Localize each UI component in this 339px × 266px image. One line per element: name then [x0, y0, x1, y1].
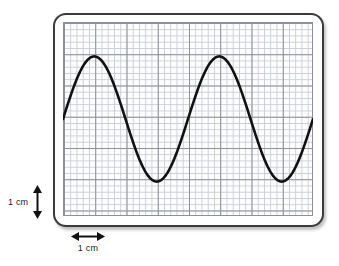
double-headed-vertical-arrow-icon	[32, 185, 43, 219]
vertical-scale-label: 1 cm	[8, 198, 28, 207]
double-headed-horizontal-arrow-icon	[71, 231, 105, 242]
vertical-scale-annotation: 1 cm	[8, 183, 56, 221]
horizontal-scale-label: 1 cm	[78, 244, 98, 253]
figure-root: 1 cm 1 cm	[0, 0, 339, 266]
graph-paper-grid	[63, 22, 313, 216]
horizontal-scale-annotation: 1 cm	[58, 231, 118, 261]
